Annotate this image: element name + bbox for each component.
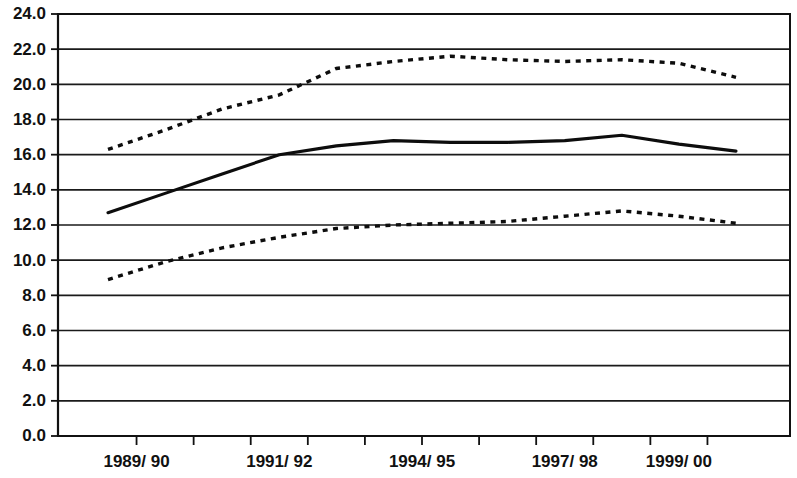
gridlines (58, 49, 790, 401)
y-axis-tick-label: 18.0 (13, 110, 46, 129)
y-axis-tick-label: 2.0 (22, 391, 46, 410)
y-axis-tick-label: 12.0 (13, 215, 46, 234)
line-chart: 0.02.04.06.08.010.012.014.016.018.020.02… (0, 0, 797, 478)
x-axis-tick-label: 1994/ 95 (389, 452, 455, 471)
y-axis-tick-label: 22.0 (13, 40, 46, 59)
y-axis-tick-label: 4.0 (22, 356, 46, 375)
y-axis-tick-label: 6.0 (22, 321, 46, 340)
y-axis-tick-label: 14.0 (13, 180, 46, 199)
y-axis-tick-label: 0.0 (22, 426, 46, 445)
y-axis-tick-label: 10.0 (13, 251, 46, 270)
x-axis-tick-label: 1997/ 98 (532, 452, 598, 471)
y-axis-tick-label: 24.0 (13, 4, 46, 23)
series-line-upper-bound (108, 56, 736, 149)
x-axis-tick-label: 1999/ 00 (646, 452, 712, 471)
y-axis-tick-label: 16.0 (13, 145, 46, 164)
y-axis-tick-label: 8.0 (22, 286, 46, 305)
axis-tickmarks (51, 14, 707, 445)
chart-canvas: 0.02.04.06.08.010.012.014.016.018.020.02… (0, 0, 797, 478)
x-axis-tick-label: 1989/ 90 (103, 452, 169, 471)
series-line-central-estimate (108, 135, 736, 212)
series-line-lower-bound (108, 211, 736, 280)
y-axis-labels: 0.02.04.06.08.010.012.014.016.018.020.02… (13, 4, 46, 445)
x-axis-tick-label: 1991/ 92 (246, 452, 312, 471)
y-axis-tick-label: 20.0 (13, 75, 46, 94)
data-series (108, 56, 736, 279)
x-axis-labels: 1989/ 901991/ 921994/ 951997/ 981999/ 00 (103, 452, 712, 471)
